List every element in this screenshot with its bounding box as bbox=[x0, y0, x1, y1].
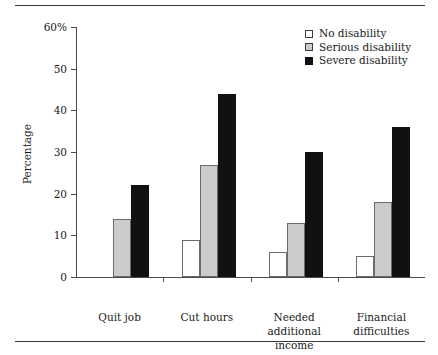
y-axis-tick-label: 60% bbox=[44, 21, 67, 33]
bar bbox=[356, 256, 374, 277]
y-axis-title-label: Percentage bbox=[21, 124, 33, 184]
bar bbox=[305, 152, 323, 277]
x-axis-category-label-line: income bbox=[239, 338, 349, 352]
legend-item-label: Serious disability bbox=[319, 41, 411, 55]
bar bbox=[131, 185, 149, 277]
y-axis-tick-label: 40 bbox=[54, 104, 67, 116]
bar bbox=[218, 94, 236, 277]
legend-item: Serious disability bbox=[305, 41, 411, 55]
y-axis-tick bbox=[71, 235, 76, 236]
legend-item-label: No disability bbox=[319, 27, 387, 41]
y-axis-tick bbox=[71, 27, 76, 28]
legend-item-label: Severe disability bbox=[319, 54, 408, 68]
x-axis-category-label-line: difficulties bbox=[326, 324, 436, 338]
bottom-horizontal-rule bbox=[15, 341, 425, 342]
x-axis-category-label-line: Financial bbox=[326, 310, 436, 324]
y-axis-tick bbox=[71, 194, 76, 195]
y-axis-tick-label: 30 bbox=[54, 146, 67, 158]
y-axis-line bbox=[76, 27, 77, 277]
bar bbox=[113, 219, 131, 277]
x-axis-category-label: Financialdifficulties bbox=[326, 310, 436, 338]
bar bbox=[287, 223, 305, 277]
top-horizontal-rule bbox=[15, 5, 425, 6]
y-axis-tick-label: 10 bbox=[54, 229, 67, 241]
y-axis-tick bbox=[71, 277, 76, 278]
y-axis-tick-label: 0 bbox=[60, 271, 67, 283]
legend-swatch-icon bbox=[305, 30, 313, 38]
legend-item: Severe disability bbox=[305, 54, 411, 68]
legend-swatch-icon bbox=[305, 43, 313, 51]
y-axis-tick-label: 20 bbox=[54, 188, 67, 200]
y-axis-title: Percentage bbox=[20, 108, 34, 200]
figure-bar-chart: Percentage 0102030405060%Quit jobCut hou… bbox=[0, 0, 438, 355]
y-axis-tick bbox=[71, 110, 76, 111]
x-axis-tick bbox=[251, 277, 252, 282]
legend-swatch-icon bbox=[305, 57, 313, 65]
bar bbox=[182, 240, 200, 278]
bar bbox=[200, 165, 218, 278]
y-axis-tick-label: 50 bbox=[54, 63, 67, 75]
legend-item: No disability bbox=[305, 27, 411, 41]
y-axis-tick bbox=[71, 69, 76, 70]
bar bbox=[392, 127, 410, 277]
bar bbox=[269, 252, 287, 277]
x-axis-tick bbox=[338, 277, 339, 282]
y-axis-tick bbox=[71, 152, 76, 153]
x-axis-tick bbox=[163, 277, 164, 282]
chart-legend: No disabilitySerious disabilitySevere di… bbox=[305, 27, 411, 68]
bar bbox=[374, 202, 392, 277]
